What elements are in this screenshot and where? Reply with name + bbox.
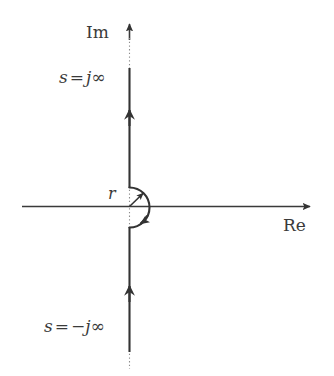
imaginary-axis-label: Im — [86, 24, 109, 41]
upper-endpoint-label: s=j∞ — [59, 69, 105, 86]
radius-arrow-line — [130, 193, 144, 206]
lower-endpoint-minus-sign: − — [71, 316, 85, 336]
complex-plane-figure: Im Re s=j∞ s=−j∞ r — [0, 0, 334, 376]
radius-arrow — [130, 193, 144, 206]
indentation-arc — [130, 188, 150, 228]
upper-endpoint-variable: s — [59, 67, 68, 87]
radius-label: r — [108, 186, 116, 202]
real-axis-label: Re — [283, 217, 306, 234]
lower-endpoint-label: s=−j∞ — [44, 318, 105, 335]
semicircular-indentation — [130, 188, 150, 228]
lower-endpoint-infinity: ∞ — [91, 316, 105, 336]
upper-endpoint-equals: = — [68, 67, 86, 87]
lower-endpoint-variable: s — [44, 316, 53, 336]
lower-endpoint-equals: = — [53, 316, 71, 336]
upper-endpoint-infinity: ∞ — [91, 67, 105, 87]
